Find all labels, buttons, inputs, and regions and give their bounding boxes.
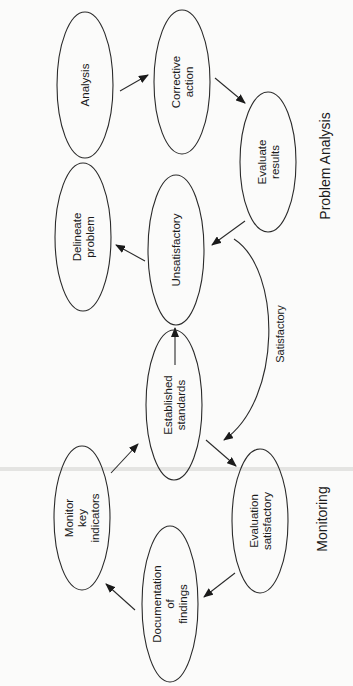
node-label: key — [76, 509, 88, 527]
node-evaluation-satisfactory: Evaluationsatisfactory — [232, 449, 288, 593]
arrow-established-standards-to-evaluation-satisfactory — [206, 440, 236, 466]
node-label: problem — [84, 216, 96, 258]
node-label: standards — [175, 380, 187, 431]
node-corrective-action: Correctiveaction — [154, 10, 210, 154]
edges-layer — [106, 75, 245, 610]
diagram-canvas: Satisfactory AnalysisCorrectiveactionEva… — [0, 0, 353, 686]
arrow-analysis-to-corrective-action — [120, 75, 148, 91]
node-unsatisfactory: Unsatisfactory — [148, 175, 204, 325]
node-analysis: Analysis — [57, 12, 113, 158]
arrow-monitor-key-indicators-to-established-standards — [111, 444, 138, 473]
node-label: results — [269, 145, 281, 179]
arrow-unsatisfactory-to-delineate-problem — [116, 245, 145, 261]
node-label: Monitor — [63, 499, 75, 538]
node-monitor-key-indicators: Monitorkeyindicators — [54, 446, 110, 590]
arrow-satisfactory-curve — [224, 239, 269, 440]
node-documentation-of-findings: Documentationoffindings — [142, 526, 198, 682]
node-label: indicators — [89, 493, 101, 542]
arrow-evaluation-satisfactory-to-documentation-of-findings — [204, 573, 235, 597]
arrow-evaluate-results-to-unsatisfactory — [212, 221, 245, 245]
node-label: Documentation — [151, 565, 163, 642]
arrow-corrective-action-to-evaluate-results — [215, 78, 245, 103]
node-label: Unsatisfactory — [170, 213, 182, 286]
satisfactory-loop: Satisfactory — [224, 239, 286, 440]
node-evaluate-results: Evaluateresults — [240, 92, 296, 232]
node-label: findings — [177, 584, 189, 624]
node-delineate-problem: Delineateproblem — [55, 163, 111, 311]
node-label: Analysis — [79, 63, 91, 106]
node-label: of — [164, 598, 176, 608]
section-label-monitoring: Monitoring — [314, 486, 330, 551]
arrow-documentation-of-findings-to-monitor-key-indicators — [106, 584, 135, 610]
node-label: Evaluation — [248, 494, 260, 548]
node-label: action — [183, 67, 195, 98]
node-label: Established — [162, 375, 174, 434]
node-label: Delineate — [71, 213, 83, 262]
node-label: Evaluate — [256, 140, 268, 185]
section-labels-layer: Problem AnalysisMonitoring — [314, 112, 333, 551]
node-label: Corrective — [170, 56, 182, 108]
node-established-standards: Establishedstandards — [146, 330, 202, 480]
node-label: satisfactory — [261, 492, 273, 550]
edge-label-satisfactory: Satisfactory — [274, 305, 286, 363]
section-label-problem-analysis: Problem Analysis — [317, 112, 333, 219]
process-flow-diagram: Satisfactory AnalysisCorrectiveactionEva… — [0, 0, 353, 686]
